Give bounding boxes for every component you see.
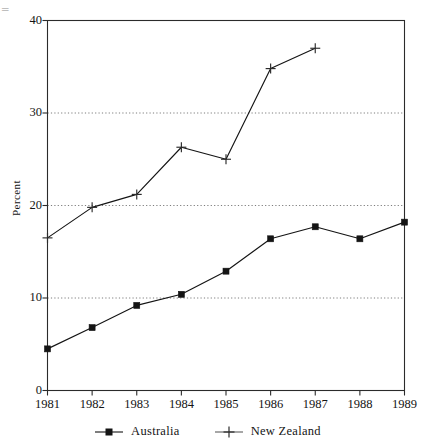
y-tick-label-30: 30 — [30, 105, 43, 120]
y-tick-label-0: 0 — [36, 383, 42, 398]
legend-item-australia[interactable]: Australia — [94, 424, 180, 439]
marker-square — [312, 224, 318, 230]
x-tick-label-1986: 1986 — [249, 397, 293, 412]
datapoint-new-zealand-0 — [43, 233, 53, 243]
legend-label-australia: Australia — [131, 424, 180, 439]
datapoint-new-zealand-4 — [221, 154, 231, 164]
x-tick-label-1984: 1984 — [159, 397, 203, 412]
marker-square — [134, 302, 140, 308]
x-tick-label-1985: 1985 — [204, 397, 248, 412]
legend-marker-filled-square — [94, 426, 124, 438]
x-tick-label-1989: 1989 — [383, 397, 422, 412]
datapoint-australia-5 — [268, 236, 274, 242]
x-tick-label-1982: 1982 — [70, 397, 114, 412]
x-tick-label-1988: 1988 — [338, 397, 382, 412]
x-tick-label-1981: 1981 — [26, 397, 70, 412]
marker-square — [223, 268, 229, 274]
datapoint-australia-1 — [89, 325, 95, 331]
marker-square — [268, 236, 274, 242]
x-tick-label-1987: 1987 — [293, 397, 337, 412]
datapoint-new-zealand-6 — [310, 43, 320, 53]
y-tick-label-20: 20 — [30, 198, 43, 213]
datapoint-australia-8 — [402, 219, 408, 225]
chart-legend: Australia New Zealand — [0, 424, 415, 439]
legend-label-new-zealand: New Zealand — [251, 424, 321, 439]
datapoint-australia-6 — [312, 224, 318, 230]
marker-square — [45, 346, 51, 352]
datapoint-australia-4 — [223, 268, 229, 274]
marker-square — [357, 236, 363, 242]
y-tick-label-10: 10 — [30, 290, 43, 305]
y-tick-label-40: 40 — [30, 13, 43, 28]
marker-square — [402, 219, 408, 225]
x-tick-label-1983: 1983 — [115, 397, 159, 412]
legend-marker-plus — [214, 426, 244, 438]
legend-item-new-zealand[interactable]: New Zealand — [214, 424, 321, 439]
datapoint-australia-2 — [134, 302, 140, 308]
datapoint-australia-7 — [357, 236, 363, 242]
marker-square — [89, 325, 95, 331]
datapoint-new-zealand-5 — [266, 64, 276, 74]
datapoint-australia-3 — [178, 291, 184, 297]
datapoint-australia-0 — [45, 346, 51, 352]
marker-square — [178, 291, 184, 297]
series-line-australia — [48, 222, 405, 349]
datapoint-new-zealand-1 — [87, 202, 97, 212]
